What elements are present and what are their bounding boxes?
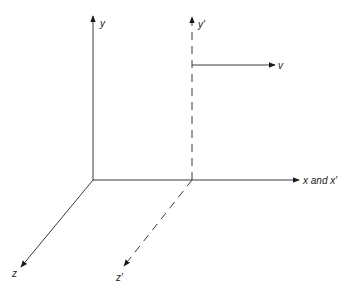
z-prime-axis — [124, 180, 192, 266]
velocity-label: v — [278, 60, 284, 71]
y-axis-label: y — [99, 18, 106, 29]
z-prime-axis-label: z′ — [115, 272, 124, 283]
z-axis-label: z — [11, 268, 17, 279]
reference-frames-diagram: y y′ v x and x′ z z′ — [0, 0, 350, 296]
x-axis-label: x and x′ — [302, 175, 338, 186]
z-axis — [21, 180, 93, 267]
y-prime-axis-label: y′ — [197, 19, 206, 30]
